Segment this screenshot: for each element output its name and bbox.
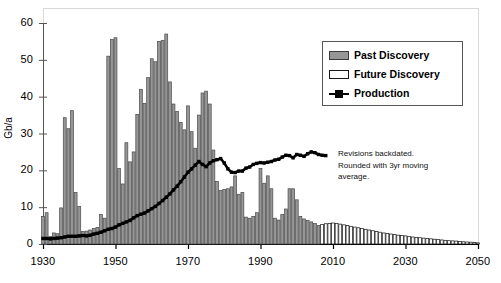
production-marker: [230, 170, 233, 173]
bar: [92, 229, 95, 244]
production-marker: [114, 225, 117, 228]
bar: [71, 111, 74, 244]
bar: [303, 219, 306, 244]
bar: [154, 62, 157, 244]
x-tick-label: 1970: [176, 255, 200, 267]
production-marker: [117, 223, 120, 226]
production-marker: [320, 154, 323, 157]
production-marker: [136, 214, 139, 217]
bar-series-past-discovery: [42, 34, 320, 244]
bar: [219, 191, 222, 244]
bar: [237, 194, 240, 244]
production-marker: [92, 232, 95, 235]
bar: [241, 192, 244, 244]
bar: [292, 189, 295, 244]
production-marker: [295, 153, 298, 156]
annotation-line-2: Rounded with 3yr moving: [338, 160, 478, 172]
production-marker: [168, 192, 171, 195]
bar: [107, 56, 110, 244]
bar: [455, 241, 458, 244]
production-marker: [183, 175, 186, 178]
bar: [158, 41, 161, 244]
bar: [448, 241, 451, 244]
bar: [183, 130, 186, 244]
production-marker: [70, 235, 73, 238]
production-marker: [128, 219, 131, 222]
bar: [226, 189, 229, 244]
y-axis-title: Gb/a: [3, 52, 14, 112]
chart-root: Gb/a Past Discovery Future Discovery Pro…: [0, 0, 501, 283]
production-marker: [306, 152, 309, 155]
chart-annotation: Revisions backdated. Rounded with 3yr mo…: [338, 148, 478, 183]
chart-legend: Past Discovery Future Discovery Producti…: [322, 41, 463, 106]
legend-item-production: Production: [329, 84, 462, 103]
production-marker: [143, 211, 146, 214]
bar: [317, 226, 320, 244]
production-marker: [121, 222, 124, 225]
production-marker: [49, 237, 52, 240]
bar: [368, 230, 371, 244]
production-marker: [215, 158, 218, 161]
production-marker: [194, 163, 197, 166]
bar: [150, 59, 153, 244]
bar: [143, 103, 146, 244]
production-marker: [172, 188, 175, 191]
bar: [63, 118, 66, 244]
y-tick-label: 60: [21, 16, 33, 28]
y-tick-label: 50: [21, 53, 33, 65]
production-marker: [56, 236, 59, 239]
legend-label-future-discovery: Future Discovery: [354, 69, 440, 80]
bar: [100, 215, 103, 244]
production-marker: [78, 234, 81, 237]
production-marker: [103, 229, 106, 232]
x-tick-label: 1930: [31, 255, 55, 267]
bar: [364, 229, 367, 244]
production-marker: [255, 162, 258, 165]
bar: [230, 187, 233, 244]
production-marker: [107, 228, 110, 231]
production-marker: [85, 234, 88, 237]
production-marker: [244, 166, 247, 169]
bar: [477, 243, 480, 244]
bar: [255, 213, 258, 244]
production-marker: [270, 160, 273, 163]
bar: [266, 176, 269, 244]
legend-swatch-future-discovery: [329, 70, 349, 79]
production-marker: [45, 237, 48, 240]
production-marker: [81, 234, 84, 237]
production-marker: [110, 227, 113, 230]
production-marker: [74, 235, 77, 238]
production-marker: [252, 163, 255, 166]
bar: [371, 231, 374, 244]
bar: [245, 217, 248, 244]
bar: [400, 236, 403, 244]
y-tick-label: 10: [21, 200, 33, 212]
bar: [440, 240, 443, 244]
bar: [176, 111, 179, 244]
x-tick-label: 2050: [466, 255, 490, 267]
bar: [216, 181, 219, 244]
legend-swatch-past-discovery: [329, 51, 349, 60]
legend-swatch-production: [329, 89, 349, 99]
production-marker: [59, 236, 62, 239]
production-marker: [165, 196, 168, 199]
bar: [139, 89, 142, 244]
bar: [259, 168, 262, 244]
production-marker: [284, 154, 287, 157]
production-marker: [241, 169, 244, 172]
production-marker: [197, 160, 200, 163]
bar: [353, 227, 356, 244]
annotation-line-3: average.: [338, 171, 478, 183]
x-tick-label: 1950: [103, 255, 127, 267]
y-tick-label: 40: [21, 90, 33, 102]
bar: [379, 232, 382, 244]
bar: [147, 78, 150, 244]
bar: [361, 229, 364, 244]
bar: [67, 129, 70, 244]
bar: [335, 223, 338, 244]
bar: [281, 215, 284, 244]
legend-label-production: Production: [354, 88, 409, 99]
production-marker: [281, 155, 284, 158]
production-marker: [248, 165, 251, 168]
bar: [125, 143, 128, 244]
